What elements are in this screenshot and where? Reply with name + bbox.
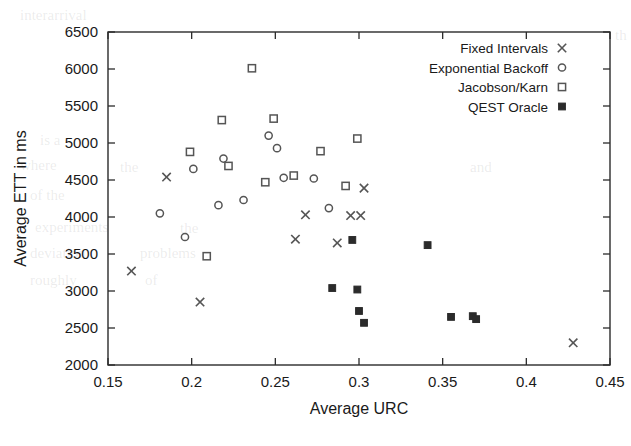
data-point [356, 211, 364, 219]
data-point [248, 65, 255, 72]
x-tick-label: 0.15 [93, 373, 122, 390]
series-jacobson-karn [186, 65, 361, 260]
data-point [225, 162, 232, 169]
x-tick-label: 0.2 [181, 373, 202, 390]
legend-marker [559, 103, 566, 110]
data-point [342, 182, 349, 189]
legend: Fixed IntervalsExponential BackoffJacobs… [429, 41, 566, 115]
legend-label: Jacobson/Karn [458, 80, 548, 95]
legend-marker [558, 83, 565, 90]
bleedthrough-text: the [120, 159, 139, 175]
data-point [220, 155, 227, 162]
legend-label: QEST Oracle [468, 100, 548, 115]
data-point [290, 172, 297, 179]
bleedthrough-text: th [615, 27, 627, 43]
data-point [346, 211, 354, 219]
bleedthrough-text: problems [140, 245, 196, 261]
y-tick-label: 5500 [65, 97, 98, 114]
data-point [317, 148, 324, 155]
data-point [356, 308, 363, 315]
legend-marker [558, 44, 566, 52]
data-point [162, 173, 170, 181]
data-point [354, 135, 361, 142]
data-point [473, 316, 480, 323]
x-tick-label: 0.4 [516, 373, 537, 390]
data-point [291, 235, 299, 243]
data-point [156, 210, 163, 217]
bleedthrough-text: is a [40, 132, 61, 148]
y-tick-label: 2000 [65, 356, 98, 373]
y-tick-label: 6000 [65, 60, 98, 77]
data-point [280, 174, 287, 181]
series-qest-oracle [329, 237, 480, 327]
y-tick-label: 6500 [65, 23, 98, 40]
data-point [186, 148, 193, 155]
bleedthrough-text: of the [30, 187, 65, 203]
y-tick-label: 3000 [65, 282, 98, 299]
x-tick-label: 0.45 [595, 373, 624, 390]
x-tick-label: 0.25 [261, 373, 290, 390]
data-point [190, 165, 197, 172]
data-point [354, 286, 361, 293]
y-tick-label: 3500 [65, 245, 98, 262]
legend-label: Exponential Backoff [429, 61, 548, 76]
data-point [333, 239, 341, 247]
x-tick-label: 0.35 [428, 373, 457, 390]
data-point [361, 319, 368, 326]
data-point [127, 267, 135, 275]
y-axis-title: Average ETT in ms [12, 130, 29, 266]
y-tick-label: 4000 [65, 208, 98, 225]
data-point [196, 298, 204, 306]
data-point [262, 179, 269, 186]
data-point [310, 175, 317, 182]
legend-marker [558, 64, 565, 71]
scatter-plot-figure: interarrivalthis awheretheandof theexper… [0, 0, 631, 446]
y-axis: 2000250030003500400045005000550060006500 [65, 23, 610, 373]
data-point [329, 285, 336, 292]
x-axis-title: Average URC [310, 400, 408, 417]
y-tick-label: 2500 [65, 319, 98, 336]
data-point [360, 184, 368, 192]
data-point [301, 211, 309, 219]
data-point [569, 339, 577, 347]
data-point [215, 202, 222, 209]
y-tick-label: 5000 [65, 134, 98, 151]
legend-label: Fixed Intervals [460, 41, 548, 56]
y-tick-label: 4500 [65, 171, 98, 188]
bleedthrough-text: and [470, 159, 492, 175]
data-point [325, 205, 332, 212]
data-point [270, 115, 277, 122]
data-point [424, 242, 431, 249]
data-point [448, 314, 455, 321]
bleedthrough-text: interarrival [20, 7, 87, 23]
data-point [203, 253, 210, 260]
bleedthrough-text: of [145, 272, 158, 288]
data-point [265, 132, 272, 139]
data-point [240, 196, 247, 203]
data-point [218, 116, 225, 123]
data-point [349, 237, 356, 244]
x-tick-label: 0.3 [349, 373, 370, 390]
data-point [273, 145, 280, 152]
